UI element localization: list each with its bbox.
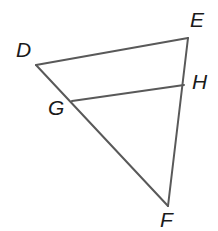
vertex-label-D: D (16, 39, 31, 60)
segment-GH (72, 85, 184, 101)
segment-FD (36, 65, 168, 206)
geometry-figure: D E H G F (0, 0, 218, 231)
segment-EF (168, 38, 188, 206)
segment-DE (36, 38, 188, 65)
vertex-label-F: F (160, 209, 173, 230)
vertex-label-H: H (192, 71, 207, 92)
geometry-canvas (0, 0, 218, 231)
vertex-label-E: E (190, 9, 204, 30)
vertex-label-G: G (48, 97, 64, 118)
